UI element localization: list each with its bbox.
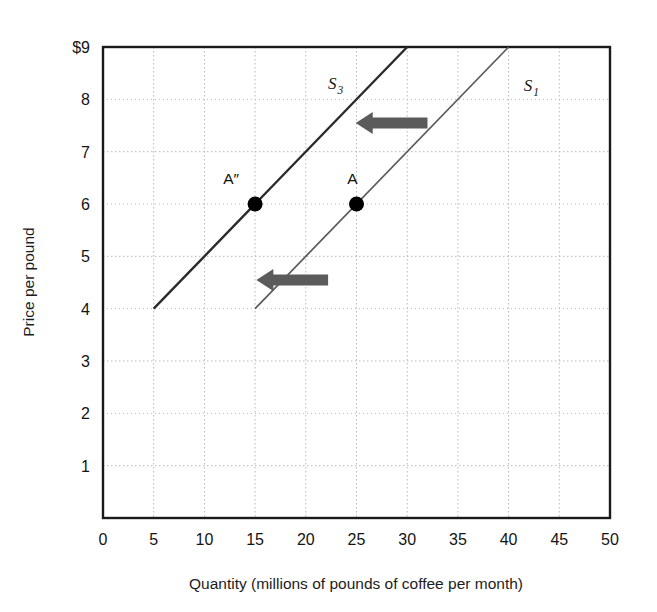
x-tick-label: 0 bbox=[99, 531, 108, 548]
y-tick-label: 6 bbox=[81, 196, 90, 213]
y-tick-label: 1 bbox=[81, 458, 90, 475]
x-tick-label: 20 bbox=[297, 531, 315, 548]
x-tick-label: 25 bbox=[348, 531, 366, 548]
point-marker-A-double-prime bbox=[248, 197, 263, 212]
y-axis-title: Price per pound bbox=[20, 227, 37, 336]
x-tick-label: 15 bbox=[246, 531, 264, 548]
point-label-A: A bbox=[347, 170, 358, 187]
y-tick-label: 8 bbox=[81, 91, 90, 108]
x-tick-label: 30 bbox=[398, 531, 416, 548]
point-label-A-double-prime: A″ bbox=[223, 170, 239, 187]
x-axis-title: Quantity (millions of pounds of coffee p… bbox=[189, 575, 523, 592]
y-tick-label: 4 bbox=[81, 301, 90, 318]
x-tick-label: 10 bbox=[196, 531, 214, 548]
x-tick-label: 45 bbox=[550, 531, 568, 548]
x-tick-label: 50 bbox=[601, 531, 619, 548]
point-marker-A bbox=[349, 197, 364, 212]
x-tick-label: 40 bbox=[500, 531, 518, 548]
y-tick-label: 7 bbox=[81, 144, 90, 161]
y-tick-label: 2 bbox=[81, 405, 90, 422]
y-tick-label: 5 bbox=[81, 248, 90, 265]
supply-curve-chart: AA″ 05101520253035404550 12345678$9 S1S3… bbox=[0, 0, 657, 612]
y-tick-label: 3 bbox=[81, 353, 90, 370]
x-tick-label: 35 bbox=[449, 531, 467, 548]
y-tick-label: $9 bbox=[72, 39, 90, 56]
x-tick-label: 5 bbox=[149, 531, 158, 548]
